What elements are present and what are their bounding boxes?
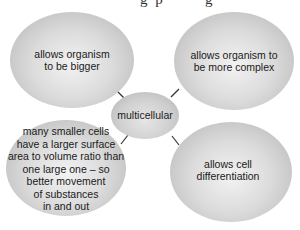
- bubble-cell-differentiation: allows cell differentiation: [170, 122, 292, 222]
- bubble-surface-area-ratio: many smaller cells have a larger surface…: [6, 120, 126, 216]
- bubble-label: allows organism to be bigger: [34, 48, 109, 73]
- bubble-label: many smaller cells have a larger surface…: [8, 123, 124, 213]
- connector-bottom-right: [172, 136, 179, 145]
- connector-top-right: [171, 89, 179, 97]
- center-bubble-multicellular: multicellular: [111, 92, 179, 139]
- bubble-label: allows cell differentiation: [197, 158, 266, 187]
- bubble-allows-complex: allows organism to be more complex: [174, 12, 294, 110]
- bubble-label: allows organism to be more complex: [191, 49, 278, 74]
- center-label: multicellular: [117, 109, 172, 122]
- bubble-allows-bigger: allows organism to be bigger: [10, 12, 134, 108]
